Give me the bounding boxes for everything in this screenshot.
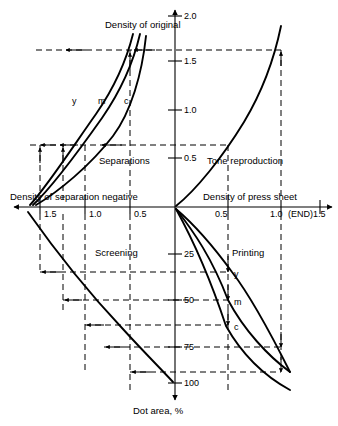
axis-title-right: Density of press sheet — [203, 191, 297, 202]
tick-label-down-50: 50 — [184, 295, 194, 305]
curve-label-printing-m: m — [234, 297, 242, 307]
tick-label-left-1.5: 1.5 — [44, 209, 57, 219]
axis-title-up: Density of original — [105, 19, 181, 30]
axis-title-down: Dot area, % — [133, 405, 184, 416]
tick-label-up-1.5: 1.5 — [184, 56, 197, 66]
tick-label-down-75: 75 — [184, 342, 194, 352]
tick-label-up-2.0: 2.0 — [184, 11, 197, 21]
tick-label-down-100: 100 — [184, 378, 199, 388]
quadrant-label-screening: Screening — [95, 247, 138, 258]
curve-label-printing-c: c — [234, 322, 239, 332]
tick-label-up-0.5: 0.5 — [184, 153, 197, 163]
tick-label-right-1.5: (END)1.5 — [288, 209, 326, 219]
tick-label-right-1.0: 1.0 — [270, 209, 283, 219]
curve-label-separation-y: y — [72, 96, 77, 106]
curve-label-separation-m: m — [98, 96, 106, 106]
axis-title-left: Density of separation negative — [10, 191, 138, 202]
curves — [28, 26, 290, 390]
axis-lines — [14, 10, 332, 400]
quadrant-label-separations: Separations — [99, 155, 150, 166]
curve-label-printing-y: y — [234, 269, 239, 279]
tick-label-down-25: 25 — [184, 249, 194, 259]
quadrant-label-printing: Printing — [232, 247, 264, 258]
diagram-canvas: 1.5 1.0 0.5 0.5 1.0 (END)1.5 2.0 1.5 1.0… — [0, 0, 338, 426]
construction-grid — [30, 50, 281, 390]
tick-label-up-1.0: 1.0 — [184, 105, 197, 115]
quadrant-label-tone-reproduction: Tone reproduction — [207, 155, 283, 166]
tick-label-left-1.0: 1.0 — [89, 209, 102, 219]
curve-separation-y — [30, 34, 133, 205]
curve-label-separation-c: c — [124, 96, 129, 106]
tick-label-left-0.5: 0.5 — [134, 209, 147, 219]
tone-reproduction-diagram: 1.5 1.0 0.5 0.5 1.0 (END)1.5 2.0 1.5 1.0… — [0, 0, 338, 426]
curve-screening — [28, 212, 173, 382]
tick-label-right-0.5: 0.5 — [215, 209, 228, 219]
